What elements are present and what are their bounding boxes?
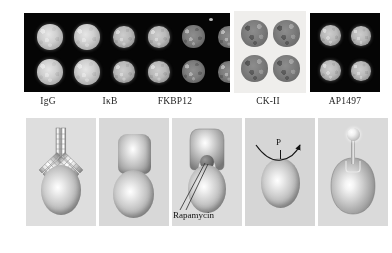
schematic-row: Rapamycin P xyxy=(0,118,392,228)
blot-spot xyxy=(148,26,170,48)
blot-label-igg: IgG xyxy=(18,96,78,106)
capsule-domain xyxy=(118,134,151,174)
blot-spot xyxy=(273,20,300,47)
blot-spot xyxy=(273,55,300,82)
schematic-panel-fkbp12 xyxy=(318,118,388,226)
ligand-sphere xyxy=(347,128,360,141)
blot-label-ikb: IκB xyxy=(85,96,135,106)
blot-label-ckii: CK-II xyxy=(233,96,303,106)
blot-spot xyxy=(320,60,341,81)
blot-spot xyxy=(37,24,63,50)
curved-arrow-icon xyxy=(245,118,315,226)
blot-spot xyxy=(241,20,268,47)
blot-spot xyxy=(113,61,135,83)
blot-label-fkbp12: FKBP12 xyxy=(142,96,208,106)
film-artifact xyxy=(209,18,213,21)
blot-spot xyxy=(148,61,170,83)
blot-spot xyxy=(113,26,135,48)
blot-spot xyxy=(351,61,371,81)
blot-spot xyxy=(182,25,205,48)
blot-panel-ap1497 xyxy=(310,13,380,92)
blot-spot xyxy=(74,24,100,50)
annotation-phosphate: P xyxy=(276,137,281,147)
spot-grid-ckii xyxy=(234,11,306,93)
blot-panel-main xyxy=(24,13,230,92)
protein-oval xyxy=(41,165,81,215)
blot-row: IgG IκB FKBP12 CK-II AP1497 xyxy=(0,0,392,95)
blot-spot xyxy=(37,59,63,85)
blot-label-ap1497: AP1497 xyxy=(310,96,380,106)
schematic-panel-ppi-2: P xyxy=(245,118,315,226)
spot-grid-main xyxy=(24,13,230,92)
schematic-panel-protein-g xyxy=(26,118,96,226)
schematic-panel-p50 xyxy=(99,118,169,226)
blot-spot xyxy=(218,26,230,48)
figure-root: IgG IκB FKBP12 CK-II AP1497 xyxy=(0,0,392,253)
annotation-rapamycin: Rapamycin xyxy=(173,210,214,220)
protein-oval xyxy=(113,170,154,218)
blot-spot xyxy=(241,55,268,82)
spot-grid-ap1497 xyxy=(310,13,380,92)
blot-spot xyxy=(320,25,341,46)
blot-spot xyxy=(351,26,371,46)
blot-spot xyxy=(74,59,100,85)
schematic-panel-frb: Rapamycin xyxy=(172,118,242,226)
blot-panel-ckii xyxy=(234,11,306,93)
blot-spot xyxy=(182,60,205,83)
blot-spot xyxy=(218,61,230,83)
